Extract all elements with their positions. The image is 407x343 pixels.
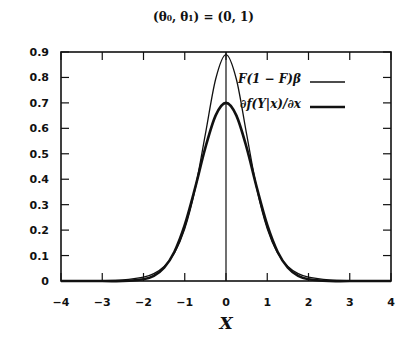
axis-ticks: −4−3−2−10123400.10.20.30.40.50.60.70.80.… xyxy=(30,46,396,309)
y-tick-label: 0.4 xyxy=(30,173,50,186)
y-tick-label: 0.6 xyxy=(30,122,50,135)
x-axis-label: X xyxy=(216,313,236,333)
x-tick-label: 2 xyxy=(305,296,313,309)
legend-label-logistic: F(1 − F)β xyxy=(238,72,301,86)
y-tick-label: 0.9 xyxy=(30,46,50,59)
x-tick-label: −4 xyxy=(53,296,70,309)
y-tick-label: 0.2 xyxy=(30,224,50,237)
x-tick-label: 0 xyxy=(222,296,230,309)
y-tick-label: 0 xyxy=(41,275,49,288)
x-tick-label: 1 xyxy=(263,296,271,309)
x-tick-label: 3 xyxy=(346,296,354,309)
x-tick-label: −3 xyxy=(94,296,111,309)
axes-frame xyxy=(61,52,391,281)
y-tick-label: 0.5 xyxy=(30,148,50,161)
x-tick-label: −2 xyxy=(135,296,152,309)
y-tick-label: 0.7 xyxy=(30,97,50,110)
y-tick-label: 0.3 xyxy=(30,199,50,212)
x-tick-label: −1 xyxy=(176,296,193,309)
legend-swatches xyxy=(310,82,345,107)
y-tick-label: 0.8 xyxy=(30,71,50,84)
legend-label-derivative: ∂f(Y|x)/∂x xyxy=(240,97,301,111)
plot-area: −4−3−2−10123400.10.20.30.40.50.60.70.80.… xyxy=(0,0,407,343)
x-tick-label: 4 xyxy=(387,296,395,309)
y-tick-label: 0.1 xyxy=(30,250,50,263)
